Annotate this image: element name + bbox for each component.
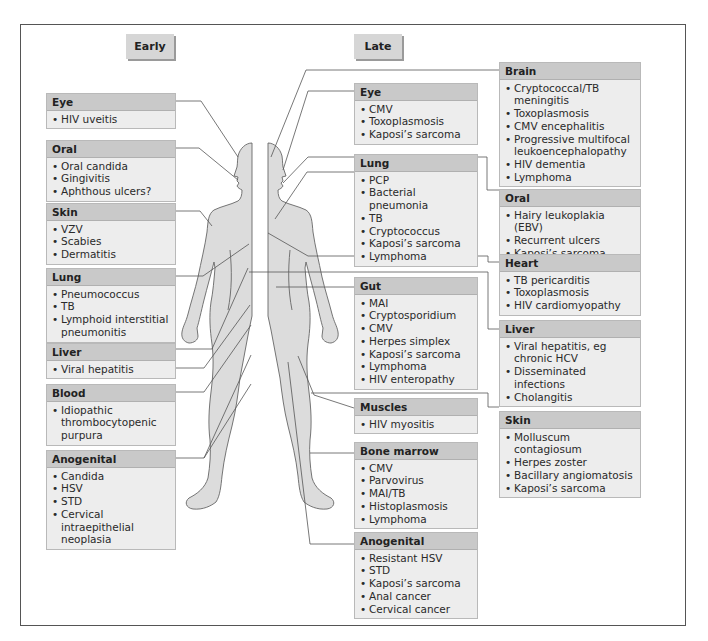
- list-item: Gingivitis: [52, 172, 171, 185]
- box-title: Blood: [47, 385, 175, 402]
- late-heart-box: Heart TB pericarditis Toxoplasmosis HIV …: [499, 254, 641, 316]
- late-brain-box: Brain Cryptococcal/TB meningitis Toxopla…: [499, 62, 641, 187]
- early-blood-box: Blood Idiopathic thrombocytopenic purpur…: [46, 384, 176, 446]
- list-item: Oral candida: [52, 160, 171, 173]
- list-item: Disseminated infections: [505, 365, 636, 390]
- list-item: Scabies: [52, 235, 171, 248]
- box-title: Skin: [500, 412, 640, 429]
- list-item: Toxoplasmosis: [505, 286, 636, 299]
- list-item: CMV: [360, 322, 473, 335]
- list-item: Lymphoid interstitial pneumonitis: [52, 313, 171, 338]
- list-item: HIV myositis: [360, 418, 473, 431]
- list-item: Aphthous ulcers?: [52, 185, 171, 198]
- box-title: Skin: [47, 204, 175, 221]
- early-label-text: Early: [134, 40, 165, 53]
- list-item: Kaposi’s sarcoma: [360, 577, 473, 590]
- list-item: Hairy leukoplakia (EBV): [505, 209, 636, 234]
- list-item: STD: [360, 564, 473, 577]
- list-item: Herpes simplex: [360, 335, 473, 348]
- box-title: Liver: [500, 321, 640, 338]
- list-item: Lymphoma: [360, 360, 473, 373]
- list-item: CMV: [360, 103, 473, 116]
- early-eye-box: Eye HIV uveitis: [46, 93, 176, 129]
- early-oral-box: Oral Oral candida Gingivitis Aphthous ul…: [46, 140, 176, 202]
- box-title: Gut: [355, 278, 477, 295]
- box-title: Oral: [500, 190, 640, 207]
- list-item: Bacterial pneumonia: [360, 186, 473, 211]
- list-item: HIV dementia: [505, 158, 636, 171]
- list-item: Toxoplasmosis: [360, 115, 473, 128]
- list-item: TB: [52, 300, 171, 313]
- list-item: HIV cardiomyopathy: [505, 299, 636, 312]
- list-item: Progressive multifocal leukoencephalopat…: [505, 133, 636, 158]
- late-anogenital-box: Anogenital Resistant HSV STD Kaposi’s sa…: [354, 532, 478, 619]
- list-item: Cryptococcal/TB meningitis: [505, 82, 636, 107]
- list-item: Viral hepatitis: [52, 363, 171, 376]
- list-item: HIV enteropathy: [360, 373, 473, 386]
- list-item: Molluscum contagiosum: [505, 431, 636, 456]
- early-liver-box: Liver Viral hepatitis: [46, 343, 176, 379]
- list-item: Resistant HSV: [360, 552, 473, 565]
- late-label-text: Late: [364, 40, 391, 53]
- list-item: MAI: [360, 297, 473, 310]
- late-muscles-box: Muscles HIV myositis: [354, 398, 478, 434]
- box-title: Anogenital: [355, 533, 477, 550]
- list-item: HIV uveitis: [52, 113, 171, 126]
- box-title: Eye: [355, 84, 477, 101]
- list-item: TB pericarditis: [505, 274, 636, 287]
- list-item: Bacillary angiomatosis: [505, 469, 636, 482]
- list-item: Cryptosporidium: [360, 309, 473, 322]
- list-item: VZV: [52, 223, 171, 236]
- box-title: Lung: [355, 155, 477, 172]
- box-title: Anogenital: [47, 451, 175, 468]
- list-item: Recurrent ulcers: [505, 234, 636, 247]
- box-title: Muscles: [355, 399, 477, 416]
- early-anogenital-box: Anogenital Candida HSV STD Cervical intr…: [46, 450, 176, 550]
- early-lung-box: Lung Pneumococcus TB Lymphoid interstiti…: [46, 268, 176, 343]
- list-item: CMV: [360, 462, 473, 475]
- list-item: Kaposi’s sarcoma: [360, 237, 473, 250]
- box-title: Liver: [47, 344, 175, 361]
- list-item: Viral hepatitis, eg chronic HCV: [505, 340, 636, 365]
- list-item: Histoplasmosis: [360, 500, 473, 513]
- list-item: Kaposi’s sarcoma: [360, 348, 473, 361]
- late-gut-box: Gut MAI Cryptosporidium CMV Herpes simpl…: [354, 277, 478, 390]
- list-item: Idiopathic thrombocytopenic purpura: [52, 404, 171, 442]
- list-item: HSV: [52, 482, 171, 495]
- list-item: Kaposi’s sarcoma: [360, 128, 473, 141]
- box-title: Eye: [47, 94, 175, 111]
- late-eye-box: Eye CMV Toxoplasmosis Kaposi’s sarcoma: [354, 83, 478, 145]
- late-oral-box: Oral Hairy leukoplakia (EBV) Recurrent u…: [499, 189, 641, 264]
- list-item: Dermatitis: [52, 248, 171, 261]
- list-item: Lymphoma: [505, 171, 636, 184]
- early-phase-label: Early: [126, 34, 174, 59]
- list-item: Cryptococcus: [360, 225, 473, 238]
- list-item: TB: [360, 212, 473, 225]
- list-item: Lymphoma: [360, 513, 473, 526]
- list-item: Pneumococcus: [52, 288, 171, 301]
- box-title: Heart: [500, 255, 640, 272]
- list-item: Lymphoma: [360, 250, 473, 263]
- list-item: MAI/TB: [360, 487, 473, 500]
- list-item: Cervical intraepithelial neoplasia: [52, 508, 171, 546]
- late-phase-label: Late: [354, 34, 402, 59]
- list-item: Candida: [52, 470, 171, 483]
- late-skin-box: Skin Molluscum contagiosum Herpes zoster…: [499, 411, 641, 498]
- late-bone-marrow-box: Bone marrow CMV Parvovirus MAI/TB Histop…: [354, 442, 478, 529]
- box-title: Oral: [47, 141, 175, 158]
- list-item: Parvovirus: [360, 474, 473, 487]
- list-item: Cervical cancer: [360, 603, 473, 616]
- list-item: Kaposi’s sarcoma: [505, 482, 636, 495]
- late-liver-box: Liver Viral hepatitis, eg chronic HCV Di…: [499, 320, 641, 407]
- box-title: Bone marrow: [355, 443, 477, 460]
- early-skin-box: Skin VZV Scabies Dermatitis: [46, 203, 176, 265]
- list-item: Herpes zoster: [505, 456, 636, 469]
- list-item: Anal cancer: [360, 590, 473, 603]
- body-figure: [182, 143, 338, 509]
- list-item: CMV encephalitis: [505, 120, 636, 133]
- list-item: PCP: [360, 174, 473, 187]
- list-item: STD: [52, 495, 171, 508]
- late-lung-box: Lung PCP Bacterial pneumonia TB Cryptoco…: [354, 154, 478, 267]
- box-title: Lung: [47, 269, 175, 286]
- box-title: Brain: [500, 63, 640, 80]
